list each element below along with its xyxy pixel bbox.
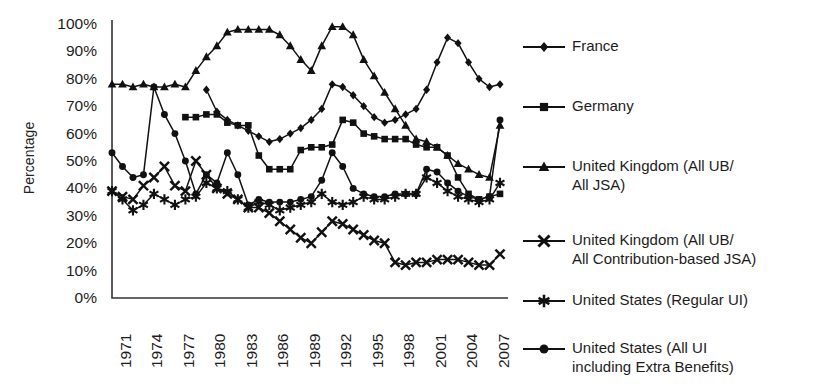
legend-item[interactable]: United Kingdom (All UB/ All JSA) bbox=[520, 156, 734, 194]
legend-item[interactable]: United Kingdom (All UB/ All Contribution… bbox=[520, 230, 756, 268]
diamond-marker-icon bbox=[520, 37, 568, 57]
legend-label: France bbox=[568, 36, 619, 55]
legend-item[interactable]: France bbox=[520, 36, 619, 57]
legend-label: Germany bbox=[568, 96, 634, 115]
legend-item[interactable]: United States (Regular UI) bbox=[520, 290, 748, 311]
series-asterisk bbox=[108, 172, 505, 215]
legend-item[interactable]: United States (All UI including Extra Be… bbox=[520, 338, 734, 376]
series-diamond bbox=[203, 34, 504, 146]
x-marker-icon bbox=[520, 231, 568, 251]
series-x bbox=[107, 156, 504, 269]
legend-item[interactable]: Germany bbox=[520, 96, 634, 117]
circle-marker-icon bbox=[520, 339, 568, 359]
legend-label: United States (Regular UI) bbox=[568, 290, 748, 309]
legend-label: United Kingdom (All UB/ All Contribution… bbox=[568, 230, 756, 268]
legend-label: United Kingdom (All UB/ All JSA) bbox=[568, 156, 734, 194]
triangle-marker-icon bbox=[520, 157, 568, 177]
chart-root: Percentage 0%10%20%30%40%50%60%70%80%90%… bbox=[0, 0, 829, 385]
asterisk-marker-icon bbox=[520, 291, 568, 311]
legend-label: United States (All UI including Extra Be… bbox=[568, 338, 734, 376]
square-marker-icon bbox=[520, 97, 568, 117]
